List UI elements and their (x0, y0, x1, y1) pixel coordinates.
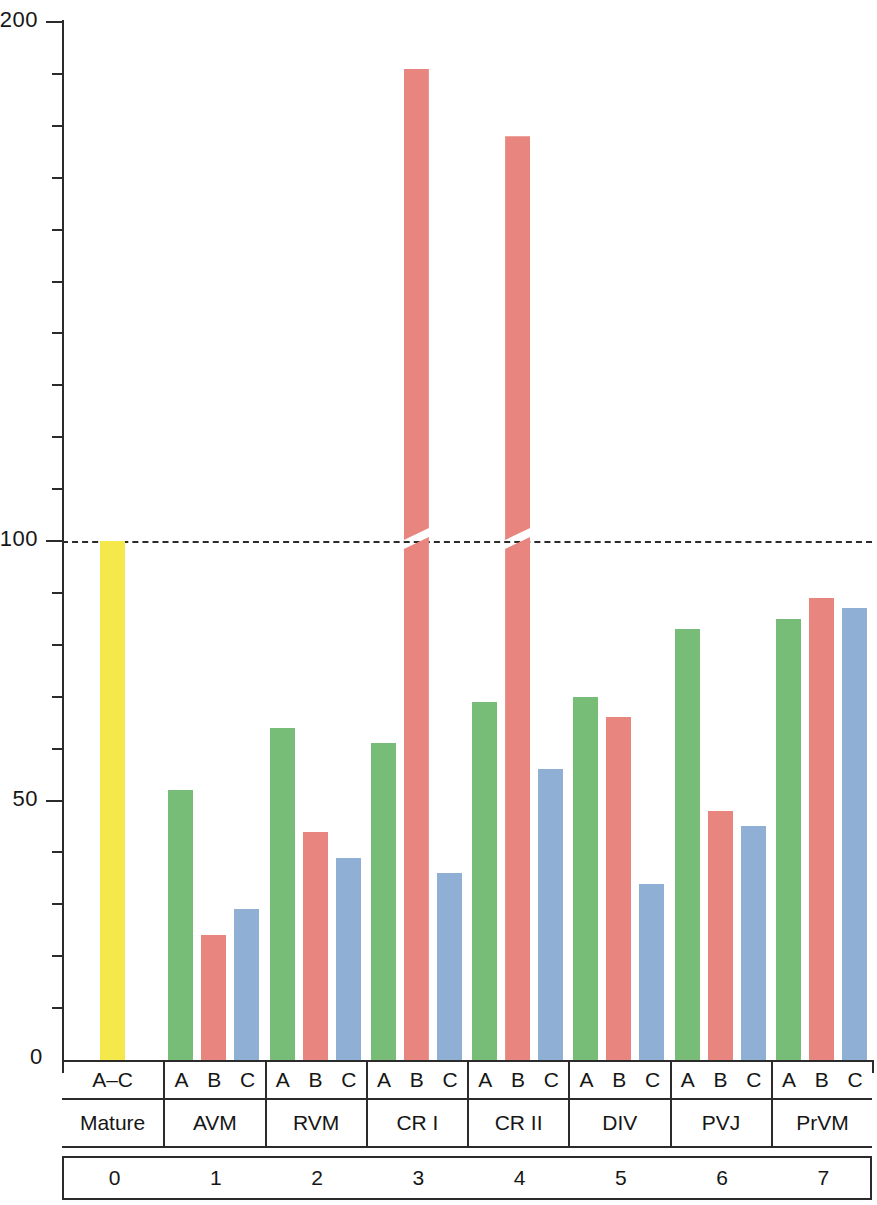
series-label-A: A (175, 1068, 189, 1092)
series-label-row: A–CABCABCABCABCABCABCABC (62, 1062, 872, 1100)
series-label-A: A (276, 1068, 290, 1092)
group-name-1: AVM (163, 1100, 264, 1146)
bar-segment-upper (404, 69, 429, 540)
group-index-4: 4 (469, 1158, 570, 1198)
bar-cr-ii-A (472, 702, 497, 1060)
series-label-A: A (681, 1068, 695, 1092)
group-index-5: 5 (570, 1158, 671, 1198)
y-axis-label-50: 50 (13, 786, 38, 812)
bar-rvm-B (303, 832, 328, 1060)
bar-cr-ii-C (538, 769, 563, 1060)
group-index-1: 1 (165, 1158, 266, 1198)
bar-pvj-A (675, 629, 700, 1060)
series-letter-row: ABC (469, 1068, 568, 1092)
series-labels-7: ABC (771, 1062, 872, 1098)
series-label-B: B (511, 1068, 525, 1092)
bar-avm-A (168, 790, 193, 1060)
series-labels-0: A–C (62, 1062, 163, 1098)
group-index-2: 2 (267, 1158, 368, 1198)
bar-avm-C (234, 909, 259, 1060)
series-label-B: B (410, 1068, 424, 1092)
bar-segment-lower (505, 537, 530, 1060)
group-index-3: 3 (368, 1158, 469, 1198)
series-label-C: C (442, 1068, 457, 1092)
series-letter-row: ABC (570, 1068, 669, 1092)
series-letter-row: ABC (165, 1068, 264, 1092)
group-name-7: PrVM (771, 1100, 872, 1146)
series-labels-1: ABC (163, 1062, 264, 1098)
series-label-A: A (478, 1068, 492, 1092)
group-name-3: CR I (366, 1100, 467, 1146)
series-label-B: B (612, 1068, 626, 1092)
bar-rvm-A (270, 728, 295, 1060)
bar-cr-i-C (437, 873, 462, 1060)
bar-pvj-B (708, 811, 733, 1060)
series-label-C: C (746, 1068, 761, 1092)
group-name-2: RVM (265, 1100, 366, 1146)
series-labels-4: ABC (467, 1062, 568, 1098)
bar-segment-lower (404, 537, 429, 1060)
bar-cr-i-A (371, 743, 396, 1060)
group-name-row: MatureAVMRVMCR ICR IIDIVPVJPrVM (62, 1100, 872, 1148)
series-letter-row: ABC (773, 1068, 872, 1092)
series-label-A: A (377, 1068, 391, 1092)
chart-page: 50100200 0 A–CABCABCABCABCABCABCABC Matu… (0, 0, 877, 1205)
series-label-A: A (580, 1068, 594, 1092)
group-index-row: 01234567 (62, 1156, 872, 1200)
series-labels-5: ABC (568, 1062, 669, 1098)
series-letter-row: ABC (672, 1068, 771, 1092)
series-label-B: B (207, 1068, 221, 1092)
series-labels-6: ABC (670, 1062, 771, 1098)
series-label-C: C (645, 1068, 660, 1092)
bar-div-C (639, 884, 664, 1060)
y-axis-label-100: 100 (0, 526, 38, 552)
x-tick-8 (872, 1060, 874, 1073)
bar-cr-i-B (404, 69, 429, 1060)
series-label-C: C (544, 1068, 559, 1092)
group-index-0: 0 (64, 1158, 165, 1198)
group-name-5: DIV (568, 1100, 669, 1146)
series-label-A: A (782, 1068, 796, 1092)
group-name-0: Mature (62, 1100, 163, 1146)
series-label-B: B (714, 1068, 728, 1092)
series-label: A–C (92, 1068, 133, 1092)
group-name-4: CR II (467, 1100, 568, 1146)
bar-div-B (606, 717, 631, 1060)
series-labels-3: ABC (366, 1062, 467, 1098)
series-label-C: C (341, 1068, 356, 1092)
series-label-C: C (240, 1068, 255, 1092)
bar-prvm-A (776, 619, 801, 1060)
bar-cr-ii-B (505, 136, 530, 1060)
bar-pvj-C (741, 826, 766, 1060)
group-index-6: 6 (672, 1158, 773, 1198)
bar-prvm-C (842, 608, 867, 1060)
series-label-C: C (847, 1068, 862, 1092)
bar-rvm-C (336, 858, 361, 1060)
group-name-6: PVJ (670, 1100, 771, 1146)
bar-segment-upper (505, 136, 530, 540)
series-letter-row: ABC (368, 1068, 467, 1092)
bar-avm-B (201, 935, 226, 1060)
series-label-B: B (815, 1068, 829, 1092)
series-label-B: B (309, 1068, 323, 1092)
bar-div-A (573, 697, 598, 1060)
y-axis-label-200: 200 (0, 7, 38, 33)
group-index-7: 7 (773, 1158, 874, 1198)
series-labels-2: ABC (265, 1062, 366, 1098)
bar-mature-A–C (100, 541, 125, 1060)
bar-prvm-B (809, 598, 834, 1060)
series-letter-row: ABC (267, 1068, 366, 1092)
plot-area (62, 22, 872, 1060)
